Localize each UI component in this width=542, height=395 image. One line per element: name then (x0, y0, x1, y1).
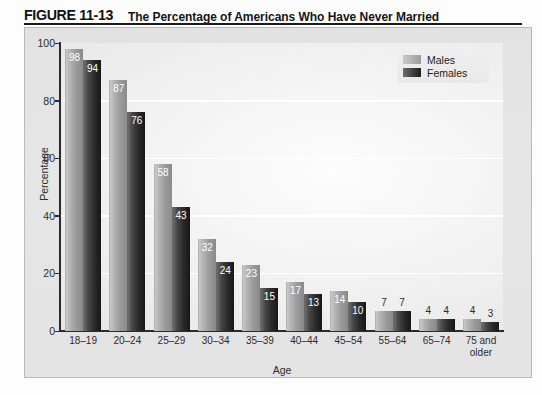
bar-group: 8776 (105, 43, 149, 331)
bar-value-label: 24 (220, 265, 231, 276)
figure-container: FIGURE 11-13 The Percentage of Americans… (0, 0, 542, 395)
legend-item-females: Females (403, 66, 483, 79)
bar-value-label: 15 (264, 291, 275, 302)
bar-males[interactable]: 23 (242, 265, 260, 331)
title-rule (24, 23, 522, 25)
bar-males[interactable]: 98 (65, 49, 83, 331)
figure-number: FIGURE 11-13 (24, 6, 113, 24)
x-tick-label: 45–54 (326, 335, 370, 367)
bar-males[interactable]: 17 (286, 282, 304, 331)
bar-value-label: 4 (443, 305, 449, 316)
bar-value-label: 98 (69, 52, 80, 63)
y-axis-title: Percentage (38, 147, 50, 201)
figure-title-row: FIGURE 11-13 The Percentage of Americans… (24, 2, 522, 24)
bar-group: 9894 (61, 43, 105, 331)
x-tick-label: 25–29 (149, 335, 193, 367)
bar-value-label: 94 (87, 63, 98, 74)
bar-group: 44 (415, 43, 459, 331)
bar-females[interactable]: 24 (216, 262, 234, 331)
x-tick-label: 35–39 (238, 335, 282, 367)
bar-value-label: 3 (488, 308, 494, 319)
bar-group: 1713 (282, 43, 326, 331)
bar-females[interactable]: 7 (393, 311, 411, 331)
bar-group: 5843 (149, 43, 193, 331)
bar-group: 3224 (194, 43, 238, 331)
legend-label-males: Males (427, 54, 455, 66)
bar-value-label: 13 (308, 297, 319, 308)
bar-males[interactable]: 7 (375, 311, 393, 331)
figure-title: The Percentage of Americans Who Have Nev… (128, 10, 439, 24)
x-tick-label: 65–74 (415, 335, 459, 367)
bar-value-label: 43 (175, 210, 186, 221)
x-tick-label: 18–19 (61, 335, 105, 367)
legend: Males Females (397, 49, 489, 83)
bar-females[interactable]: 43 (172, 207, 190, 331)
y-tick-label: 40 (15, 210, 55, 222)
y-tick-label: 20 (15, 267, 55, 279)
bar-value-label: 17 (290, 285, 301, 296)
x-tick-label: 75 andolder (459, 335, 503, 367)
bar-males[interactable]: 58 (154, 164, 172, 331)
x-tick-label: 30–34 (194, 335, 238, 367)
bar-value-label: 23 (246, 268, 257, 279)
bar-value-label: 7 (381, 297, 387, 308)
chart-panel: 020406080100 Percentage 9894877658433224… (24, 27, 532, 378)
bar-value-label: 10 (352, 305, 363, 316)
x-axis-tick-labels: 18–1920–2425–2930–3435–3940–4445–5455–64… (61, 335, 503, 367)
bar-females[interactable]: 3 (481, 322, 499, 331)
legend-swatch-males-icon (403, 55, 421, 64)
bar-females[interactable]: 13 (304, 294, 322, 331)
bar-males[interactable]: 32 (198, 239, 216, 331)
bar-females[interactable]: 10 (348, 302, 366, 331)
legend-swatch-females-icon (403, 68, 421, 77)
bar-males[interactable]: 4 (463, 319, 481, 331)
bar-value-label: 4 (470, 305, 476, 316)
x-axis-title: Age (61, 364, 503, 376)
bar-males[interactable]: 14 (330, 291, 348, 331)
y-tick-label: 100 (15, 37, 55, 49)
bar-males[interactable]: 87 (109, 80, 127, 331)
y-tick-label: 80 (15, 95, 55, 107)
legend-item-males: Males (403, 53, 483, 66)
bar-value-label: 87 (113, 83, 124, 94)
legend-label-females: Females (427, 67, 467, 79)
bar-value-label: 7 (399, 297, 405, 308)
bar-value-label: 58 (157, 167, 168, 178)
bar-value-label: 4 (425, 305, 431, 316)
x-tick-label: 20–24 (105, 335, 149, 367)
x-tick-label: 55–64 (370, 335, 414, 367)
bar-females[interactable]: 76 (127, 112, 145, 331)
bar-groups: 9894877658433224231517131410774443 (61, 43, 503, 331)
bar-value-label: 76 (131, 115, 142, 126)
bar-value-label: 32 (202, 242, 213, 253)
bar-females[interactable]: 4 (437, 319, 455, 331)
bar-females[interactable]: 15 (260, 288, 278, 331)
bar-group: 77 (370, 43, 414, 331)
bar-value-label: 14 (334, 294, 345, 305)
bar-group: 43 (459, 43, 503, 331)
bar-group: 1410 (326, 43, 370, 331)
bar-group: 2315 (238, 43, 282, 331)
y-tick-label: 0 (15, 325, 55, 337)
x-tick-label: 40–44 (282, 335, 326, 367)
bar-males[interactable]: 4 (419, 319, 437, 331)
bar-females[interactable]: 94 (83, 60, 101, 331)
